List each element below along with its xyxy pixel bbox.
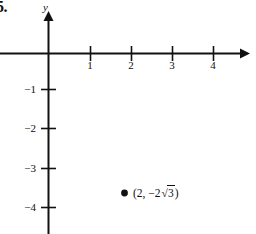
x-axis-arrowhead [240, 49, 250, 59]
coordinate-plane [0, 0, 256, 234]
point-y-sign-coefficient: −2 [148, 187, 160, 199]
x-tick-label-1: 1 [87, 60, 93, 71]
x-tick-label-2: 2 [128, 60, 134, 71]
x-tick-label-4: 4 [210, 60, 216, 71]
y-tick-label-minus-1: −1 [8, 84, 36, 95]
point-close-paren: ) [175, 187, 179, 199]
radicand-value: 3 [167, 185, 175, 200]
radical-group: √3 [161, 185, 175, 200]
axes-svg [0, 0, 256, 234]
data-point-marker [121, 190, 128, 197]
y-axis-label: y [43, 2, 48, 13]
point-x-value: 2, [137, 187, 146, 199]
y-tick-label-minus-4: −4 [8, 202, 36, 213]
y-tick-label-minus-2: −2 [8, 123, 36, 134]
point-annotation: (2, −2√3) [133, 185, 179, 200]
x-tick-label-3: 3 [169, 60, 175, 71]
y-tick-label-minus-3: −3 [8, 163, 36, 174]
figure-canvas: 5. y 1 2 3 4 −1 [0, 0, 256, 234]
